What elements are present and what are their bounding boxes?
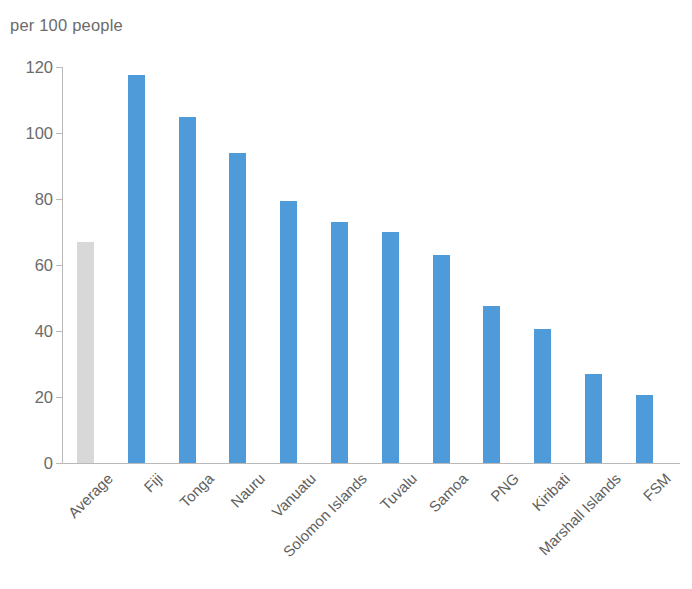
x-axis-tick-label-text: Tonga [177,470,217,510]
y-axis-tick-mark [56,397,62,398]
bar [433,255,450,463]
bar [128,75,145,463]
y-axis-tick-label: 60 [35,257,53,274]
y-axis-tick-mark [56,133,62,134]
x-axis-tick-label-text: Average [65,470,115,520]
bar-chart: per 100 people 020406080100120 AverageFi… [0,0,692,589]
bar [229,153,246,463]
bar [483,306,500,463]
bar [280,201,297,463]
y-axis-tick-mark [56,463,62,464]
y-axis-tick-mark [56,331,62,332]
y-axis-tick-label: 0 [44,455,53,472]
y-axis-tick-label: 80 [35,191,53,208]
bar [331,222,348,463]
y-axis-tick-label: 40 [35,323,53,340]
bar [179,117,196,464]
x-axis-tick-label: Nauru [244,440,283,479]
y-axis-tick-label: 20 [35,389,53,406]
x-axis-tick-label-text: Vanuatu [269,470,318,519]
y-axis-tick-label: 120 [25,59,53,76]
y-axis-tick-mark [56,199,62,200]
x-axis-tick-label-text: Nauru [228,470,267,509]
x-axis-tick-label: Tonga [193,440,233,480]
x-axis-tick-label-text: PNG [488,470,522,504]
x-axis-tick-label-text: Kiribati [529,470,572,513]
y-axis-tick-mark [56,67,62,68]
x-axis-tick-label-text: FSM [641,470,674,503]
plot-area: 020406080100120 AverageFijiTongaNauruVan… [62,67,680,463]
bar [77,242,94,463]
y-axis-line [62,67,63,463]
x-axis-tick-label-text: Samoa [426,470,470,514]
chart-title: per 100 people [10,16,123,35]
y-axis-tick-label: 100 [25,125,53,142]
x-axis-tick-label-text: Fiji [141,470,165,494]
x-axis-tick-label-text: Tuvalu [378,470,420,512]
bar [534,329,551,463]
y-axis-tick-mark [56,265,62,266]
x-axis-tick-label: Fiji [142,455,166,479]
